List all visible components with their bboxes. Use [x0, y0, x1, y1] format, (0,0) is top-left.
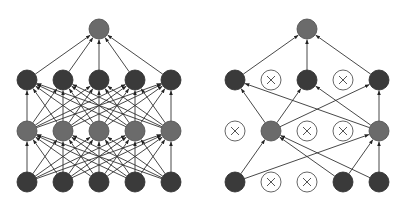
hidden1-neuron [17, 121, 37, 141]
hidden1-neuron [261, 121, 281, 141]
connection-arrow [105, 38, 129, 72]
connection-arrow [280, 137, 335, 176]
input-neuron [369, 172, 389, 192]
dropout-diagram [0, 0, 402, 209]
input-neuron [89, 172, 109, 192]
connection-arrow [277, 89, 301, 123]
hidden2-neuron [369, 70, 389, 90]
input-neuron [17, 172, 37, 192]
hidden2-neuron [125, 70, 145, 90]
hidden1-neuron [369, 121, 389, 141]
connection-arrow [108, 35, 163, 74]
hidden1-neuron [125, 121, 145, 141]
output-neuron [89, 19, 109, 39]
connection-arrow [280, 135, 369, 177]
hidden2-neuron [89, 70, 109, 90]
neural-network-canvas [0, 0, 402, 209]
connection-arrow [241, 140, 265, 174]
connection-arrow [35, 35, 90, 74]
hidden1-neuron [89, 121, 109, 141]
input-neuron [333, 172, 353, 192]
standard-net-edges [27, 35, 171, 179]
output-neuron [297, 19, 317, 39]
hidden2-neuron [53, 70, 73, 90]
connection-arrow [280, 84, 369, 126]
hidden1-neuron [53, 121, 73, 141]
connection-arrow [316, 35, 371, 74]
hidden1-neuron [161, 121, 181, 141]
input-neuron [225, 172, 245, 192]
hidden2-neuron [161, 70, 181, 90]
input-neuron [53, 172, 73, 192]
dropout-net-edges [241, 35, 379, 179]
hidden2-neuron [297, 70, 317, 90]
connection-arrow [349, 140, 373, 174]
input-neuron [161, 172, 181, 192]
hidden2-neuron [17, 70, 37, 90]
connection-arrow [243, 35, 298, 74]
hidden2-neuron [225, 70, 245, 90]
connection-arrow [241, 89, 265, 123]
input-neuron [125, 172, 145, 192]
connection-arrow [69, 38, 93, 72]
